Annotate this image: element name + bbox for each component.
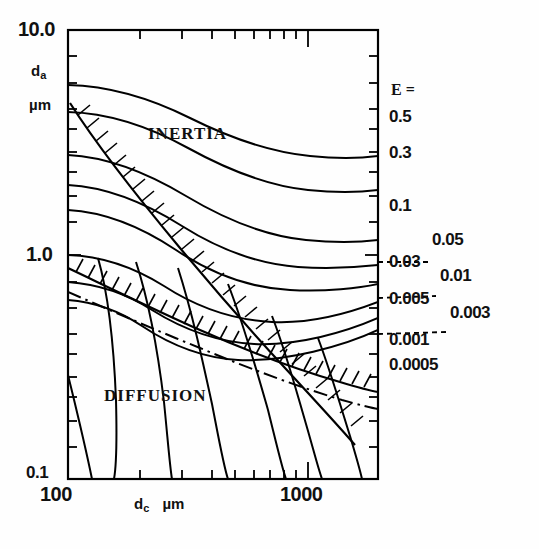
plot-frame <box>68 30 378 479</box>
legend-entry-0.001: 0.001 <box>389 330 429 350</box>
y-axis-label-top: 10.0 <box>18 18 55 41</box>
y-axis-unit: µm <box>29 96 51 113</box>
legend-entry-0.01: 0.01 <box>440 266 471 286</box>
y-axis-title: da <box>31 62 46 81</box>
legend-entry-0.05: 0.05 <box>432 230 463 250</box>
curve-E-0.03-diffusion-branch <box>178 268 228 479</box>
y-axis-ticks-right <box>365 30 378 479</box>
curve-E-0.003-diffusion-branch <box>318 338 362 479</box>
curve-E-0.1 <box>68 155 378 242</box>
curve-E-0.003 <box>68 300 378 360</box>
y-axis-label-mid: 1.0 <box>26 243 52 266</box>
x-axis-label-left: 100 <box>40 483 72 506</box>
curve-E-0.03 <box>68 210 378 291</box>
x-axis-label-right: 1000 <box>280 483 323 506</box>
legend-entry-0.005: 0.005 <box>389 289 429 309</box>
curve-E-0.0005-diffusion-branch <box>68 375 92 479</box>
region-label-diffusion: DIFFUSION <box>104 386 207 406</box>
legend-entry-0.003: 0.003 <box>450 303 490 323</box>
legend-entry-0.3: 0.3 <box>389 143 411 163</box>
x-axis-title: dc µm <box>134 495 184 514</box>
y-axis-label-bottom: 0.1 <box>26 463 48 483</box>
curve-E-0.05 <box>68 185 378 268</box>
legend-entry-0.5: 0.5 <box>389 107 411 127</box>
legend-entry-0.1: 0.1 <box>389 196 411 216</box>
x-axis-unit: µm <box>162 495 184 512</box>
legend-entry-0.03: 0.03 <box>389 252 420 272</box>
y-axis-title-sub: a <box>40 69 46 81</box>
legend-title: E = <box>391 81 415 99</box>
y-axis-title-main: d <box>31 62 40 79</box>
x-axis-title-main: d <box>134 495 143 512</box>
collection-efficiency-chart: 10.0 1.0 0.1 da µm 100 1000 dc µm INERTI… <box>0 0 539 549</box>
x-axis-title-sub: c <box>143 502 149 514</box>
x-axis-ticks-top <box>68 30 378 47</box>
curve-E-0.5 <box>68 85 378 158</box>
region-label-inertia: INERTIA <box>148 124 227 144</box>
legend-entry-0.0005: 0.0005 <box>389 355 438 375</box>
